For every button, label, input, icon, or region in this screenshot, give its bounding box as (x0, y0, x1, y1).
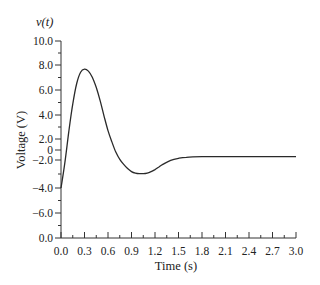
x-tick-label: 1.8 (195, 245, 210, 257)
voltage-curve (61, 69, 296, 188)
x-tick-label: 2.7 (265, 245, 280, 257)
x-axis-title: Time (s) (155, 259, 197, 273)
x-tick-label: 0.9 (124, 245, 139, 257)
y-tick-label: −2.0 (32, 154, 53, 166)
x-tick-label: 0.0 (54, 245, 69, 257)
x-tick-label: 0.6 (101, 245, 116, 257)
y-axis: 10.08.06.04.02.00−2.0−4.0−6.00.0 (32, 35, 61, 244)
x-tick-label: 1.5 (171, 245, 186, 257)
x-tick-label: 2.1 (218, 245, 233, 257)
y-tick-label: 0.0 (39, 232, 54, 244)
y-tick-label: −4.0 (32, 182, 53, 194)
voltage-chart: 10.08.06.04.02.00−2.0−4.0−6.00.0 0.00.30… (0, 0, 320, 285)
y-tick-label: 10.0 (33, 35, 53, 47)
y-tick-label: −6.0 (32, 207, 53, 219)
y-tick-label: 8.0 (39, 59, 54, 71)
x-tick-label: 2.4 (242, 245, 257, 257)
x-axis: 0.00.30.60.91.21.51.82.12.42.73.0 (54, 232, 304, 257)
function-label: v(t) (36, 15, 53, 29)
y-tick-label: 4.0 (39, 109, 54, 121)
x-tick-label: 0.3 (77, 245, 92, 257)
y-axis-title: Voltage (V) (14, 111, 28, 169)
x-tick-label: 3.0 (289, 245, 304, 257)
x-tick-label: 1.2 (148, 245, 163, 257)
y-tick-label: 6.0 (39, 84, 54, 96)
